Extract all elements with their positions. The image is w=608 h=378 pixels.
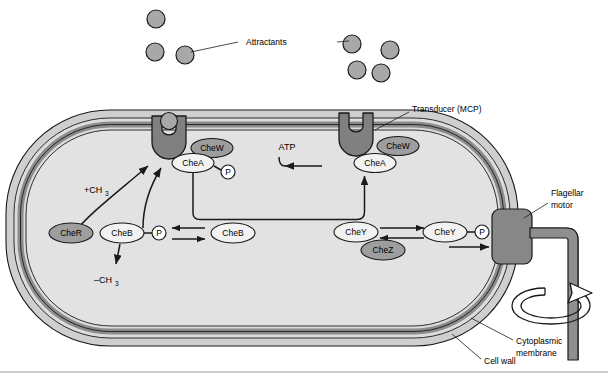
chew-right-group: CheW	[377, 137, 419, 156]
phosphate-label: P	[156, 228, 162, 238]
cheb-phos-label: CheB	[111, 228, 133, 238]
attractant-molecule	[372, 64, 390, 82]
flagellar-motor-label-line1: Flagellar	[551, 188, 584, 198]
chew-right-label: CheW	[386, 141, 410, 151]
chea-right-label: CheA	[364, 158, 386, 168]
attractant-molecule	[381, 41, 399, 59]
attractant-molecule	[348, 61, 366, 79]
chey-right-group: CheY P	[423, 222, 489, 242]
attractant-molecule	[147, 10, 165, 28]
cell-wall-callout: Cell wall	[452, 334, 516, 366]
attractant-cluster-right	[343, 35, 399, 82]
rotation-indicator	[512, 283, 592, 324]
methyl-add-subscript: 3	[105, 190, 109, 197]
leader-line	[191, 42, 238, 52]
chey-left-label: CheY	[345, 227, 367, 237]
chez-label: CheZ	[373, 245, 394, 255]
flagellar-motor-callout: Flagellar motor	[524, 188, 584, 218]
cheb-label: CheB	[222, 228, 244, 238]
attractant-molecule	[343, 35, 361, 53]
attractants-callout: Attractants	[191, 37, 349, 52]
bound-attractant	[161, 113, 178, 130]
cher-group: CheR	[49, 223, 93, 243]
chey-left-group: CheY	[334, 222, 378, 242]
phosphate-label: P	[479, 227, 485, 237]
cell-wall-label: Cell wall	[484, 356, 516, 366]
chea-right-group: CheA	[354, 154, 396, 173]
phosphate-label: P	[225, 167, 231, 177]
cytoplasmic-membrane-label-line2: membrane	[516, 348, 557, 358]
methyl-remove-label: –CH	[94, 275, 112, 285]
leader-line	[452, 334, 481, 359]
attractant-molecule	[146, 43, 164, 61]
diagram-canvas: Attractants Transducer (MCP) CheW CheA P…	[0, 0, 608, 378]
cheb-phos-group: CheB P	[100, 223, 166, 243]
chew-left-label: CheW	[200, 143, 224, 153]
atp-label: ATP	[279, 142, 296, 152]
attractant-molecule	[176, 46, 194, 64]
cytoplasmic-membrane-label-line1: Cytoplasmic	[516, 336, 563, 346]
transducer-label: Transducer (MCP)	[412, 104, 482, 114]
cher-label: CheR	[60, 228, 82, 238]
methyl-remove-subscript: 3	[115, 280, 119, 287]
chemotaxis-diagram: Attractants Transducer (MCP) CheW CheA P…	[0, 0, 608, 378]
flagellar-motor-body	[492, 209, 532, 264]
flagellar-motor-label-line2: motor	[551, 200, 573, 210]
attractants-label: Attractants	[246, 37, 287, 47]
chez-group: CheZ	[361, 240, 405, 260]
leader-line	[471, 318, 513, 340]
transducer-left	[152, 113, 186, 160]
chey-right-label: CheY	[434, 227, 456, 237]
methyl-add-label: +CH	[84, 185, 102, 195]
attractant-cluster-left	[146, 10, 194, 64]
chea-left-label: CheA	[182, 158, 204, 168]
cheb-group: CheB	[211, 223, 255, 243]
